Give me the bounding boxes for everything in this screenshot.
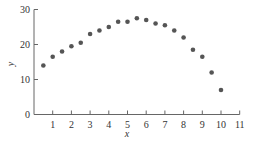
data-point — [116, 19, 121, 24]
y-tick-label: 10 — [20, 74, 30, 85]
data-point — [135, 16, 140, 21]
y-tick-label: 0 — [25, 109, 30, 120]
x-tick-label: 4 — [106, 119, 111, 130]
x-tick-label: 8 — [181, 119, 186, 130]
data-point — [97, 28, 102, 33]
data-point — [144, 18, 149, 23]
data-point — [60, 49, 65, 54]
x-tick-label: 10 — [216, 119, 226, 130]
data-point — [153, 21, 158, 26]
data-point — [50, 54, 55, 59]
data-point — [69, 44, 74, 49]
data-point — [209, 70, 214, 75]
data-point — [41, 63, 46, 68]
x-tick-label: 11 — [235, 119, 245, 130]
x-tick-label: 6 — [144, 119, 149, 130]
y-tick-label: 30 — [20, 4, 30, 15]
data-point — [125, 19, 130, 24]
data-point — [181, 35, 186, 40]
x-tick-label: 3 — [88, 119, 93, 130]
data-point — [172, 28, 177, 33]
data-points — [41, 16, 223, 92]
x-tick-label: 2 — [69, 119, 74, 130]
data-point — [163, 23, 168, 28]
x-tick-label: 1 — [50, 119, 55, 130]
scatter-chart: 01020301234567891011 x y — [0, 0, 261, 144]
x-axis-label: x — [124, 128, 130, 139]
data-point — [219, 88, 224, 93]
data-point — [191, 47, 196, 52]
x-tick-label: 7 — [162, 119, 167, 130]
x-tick-label: 9 — [200, 119, 205, 130]
data-point — [200, 54, 205, 59]
axes: 01020301234567891011 — [20, 4, 245, 130]
data-point — [78, 40, 83, 45]
y-tick-label: 20 — [20, 39, 30, 50]
data-point — [107, 25, 112, 30]
y-axis-label: y — [5, 61, 16, 67]
data-point — [88, 32, 93, 37]
